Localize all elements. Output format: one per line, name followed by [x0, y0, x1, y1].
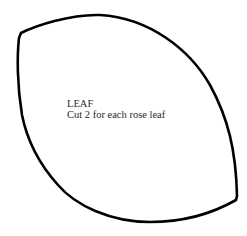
leaf-label: LEAF Cut 2 for each rose leaf: [67, 98, 165, 120]
leaf-title: LEAF: [67, 98, 165, 109]
cut-instruction: Cut 2 for each rose leaf: [67, 109, 165, 120]
